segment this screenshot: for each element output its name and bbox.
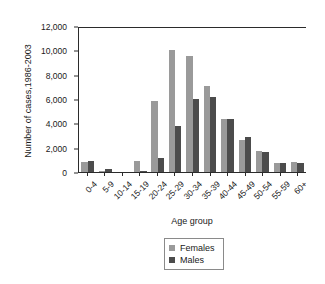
y-axis-tick-mark: [74, 148, 78, 149]
bar-group: [201, 28, 218, 173]
bar-males-50-54: [262, 152, 268, 173]
y-axis-tick-label: 8,000: [46, 71, 72, 81]
plot-area: [78, 27, 306, 173]
bar-males-30-34: [193, 99, 199, 173]
bar-series-container: [79, 28, 306, 173]
legend-item-males: Males: [169, 254, 215, 266]
y-axis-tick-label: 4,000: [46, 119, 72, 129]
y-axis-tick-label: 12,000: [41, 22, 72, 32]
y-axis-tick-mark: [74, 27, 78, 28]
females-swatch-icon: [169, 245, 175, 251]
y-axis-tick-mark: [74, 173, 78, 174]
legend-item-females: Females: [169, 242, 215, 254]
bar-group: [96, 28, 113, 173]
bar-group: [289, 28, 306, 173]
bar-males-45-49: [245, 137, 251, 174]
bar-males-20-24: [158, 158, 164, 173]
bar-males-35-39: [210, 97, 216, 173]
y-axis-tick-label: 0: [62, 168, 72, 178]
bar-group: [254, 28, 271, 173]
bar-males-40-44: [227, 119, 233, 173]
x-axis-title: Age group: [78, 216, 306, 226]
bar-group: [184, 28, 201, 173]
x-axis-tick-labels: 0-45-910-1415-1920-2425-2930-3435-3940-4…: [78, 176, 306, 216]
bar-group: [166, 28, 183, 173]
males-swatch-icon: [169, 257, 175, 263]
y-axis-tick-mark: [74, 75, 78, 76]
y-axis-tick-label: 10,000: [41, 46, 72, 56]
y-axis-tick-mark: [74, 124, 78, 125]
y-axis-title: Number of cases,1986-2003: [23, 21, 33, 181]
bar-group: [114, 28, 131, 173]
bar-chart: Number of cases,1986-2003 02,0004,0006,0…: [0, 0, 325, 284]
bar-group: [219, 28, 236, 173]
bar-group: [149, 28, 166, 173]
y-axis-tick-label: 6,000: [46, 95, 72, 105]
y-axis-tick-label: 2,000: [46, 144, 72, 154]
bar-males-25-29: [175, 126, 181, 173]
y-axis-tick-mark: [74, 100, 78, 101]
legend-label-males: Males: [180, 255, 204, 265]
bar-group: [271, 28, 288, 173]
bar-group: [131, 28, 148, 173]
bar-group: [236, 28, 253, 173]
chart-legend: Females Males: [164, 238, 224, 270]
legend-label-females: Females: [180, 243, 215, 253]
bar-group: [79, 28, 96, 173]
y-axis-tick-mark: [74, 51, 78, 52]
